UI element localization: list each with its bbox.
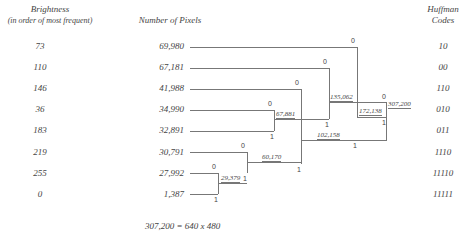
bit-0: 0 (268, 100, 272, 107)
bit-1: 1 (382, 119, 386, 126)
bit-1: 1 (243, 175, 247, 182)
node-60170: 60,170 (262, 153, 281, 162)
bit-0: 0 (382, 93, 386, 100)
bit-1: 1 (270, 133, 274, 140)
bit-1: 1 (297, 166, 301, 173)
bit-0: 0 (351, 37, 355, 44)
footer-equation: 307,200 = 640 x 480 (145, 221, 220, 231)
bit-0: 0 (212, 163, 216, 170)
bit-0: 0 (241, 142, 245, 149)
bit-1: 1 (214, 196, 218, 203)
node-172138: 172,138 (359, 107, 382, 116)
huffman-tree (0, 0, 476, 242)
node-102158: 102,158 (317, 131, 340, 140)
bit-1: 1 (353, 142, 357, 149)
node-67881: 67,881 (276, 110, 295, 119)
bit-0: 0 (295, 79, 299, 86)
node-29379: 29,379 (221, 174, 240, 183)
bit-1: 1 (325, 121, 329, 128)
bit-0: 0 (323, 58, 327, 65)
node-307200: 307,200 (388, 100, 411, 109)
node-135062: 135,062 (330, 93, 353, 102)
